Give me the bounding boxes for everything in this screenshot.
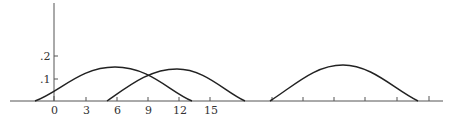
x-tick-label: 0: [51, 104, 58, 117]
x-tick-label: 6: [114, 104, 121, 117]
x-tick-label: 12: [173, 104, 187, 117]
x-tick-label: 3: [83, 104, 90, 117]
y-tick-label: .1: [40, 73, 51, 86]
density-chart: .1 .2 0 3 6 9 12 15: [0, 0, 454, 120]
curve-3: [270, 65, 418, 101]
curve-2: [107, 69, 245, 101]
x-tick-label: 15: [204, 104, 218, 117]
y-tick-label: .2: [40, 50, 51, 63]
x-tick-label: 9: [145, 104, 152, 117]
